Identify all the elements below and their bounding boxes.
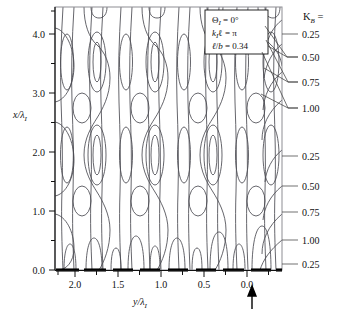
legend-label-7: 1.00	[302, 235, 320, 246]
x-tick-label-3: 0.5	[198, 279, 211, 290]
y-tick-label-0: 0.0	[33, 265, 46, 276]
legend-label-1: 0.50	[302, 52, 320, 63]
legend-label-8: 0.25	[302, 259, 320, 270]
parameter-line-3: ℓ/b = 0.34	[212, 41, 249, 51]
legend-label-3: 1.00	[302, 103, 320, 114]
y-axis-ticks	[49, 11, 55, 270]
parameter-box: ΘI = 0° kIℓ = π ℓ/b = 0.34	[205, 10, 268, 54]
x-tick-label-2: 1.0	[155, 279, 168, 290]
y-axis-title-sub: I	[24, 115, 28, 123]
x-tick-label-1: 1.5	[112, 279, 125, 290]
x-tick-label-0: 2.0	[69, 279, 82, 290]
legend-label-5: 0.50	[302, 181, 320, 192]
x-axis-title: y/λI	[132, 296, 148, 310]
y-axis-title: x/λI	[12, 109, 28, 123]
y-tick-label-1: 1.0	[33, 206, 46, 217]
y-tick-label-2: 2.0	[33, 147, 46, 158]
legend-header: KB =	[303, 11, 324, 25]
legend-label-0: 0.25	[302, 29, 320, 40]
y-tick-label-4: 4.0	[33, 29, 46, 40]
contour-figure: 0.0 1.0 2.0 3.0 4.0 x/λI 2.0 1.5 1.0 0.5…	[0, 0, 341, 314]
legend-label-4: 0.25	[302, 151, 320, 162]
legend-label-2: 0.75	[302, 77, 320, 88]
x-axis-title-main: y/λ	[132, 296, 145, 307]
legend-label-6: 0.75	[302, 207, 320, 218]
x-axis-title-sub: I	[144, 302, 148, 310]
x-axis-ticks	[58, 271, 269, 277]
y-tick-label-3: 3.0	[33, 88, 46, 99]
y-axis-title-main: x/λ	[12, 109, 25, 120]
